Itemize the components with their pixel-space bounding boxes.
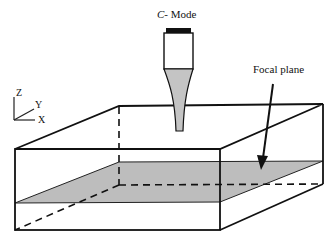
diagram-canvas [0, 0, 335, 244]
axis-y-label: Y [35, 100, 42, 110]
focal-plane-label: Focal plane [253, 64, 304, 75]
transducer-cone [164, 69, 193, 131]
axis-z-label: Z [16, 88, 22, 98]
focal-plane [15, 161, 323, 203]
transducer-body [164, 33, 193, 69]
mode-title: C- Mode [157, 9, 196, 20]
axes-icon [14, 97, 35, 120]
axis-x-label: X [38, 115, 45, 125]
mode-text: - Mode [164, 8, 196, 20]
transducer [164, 28, 193, 131]
